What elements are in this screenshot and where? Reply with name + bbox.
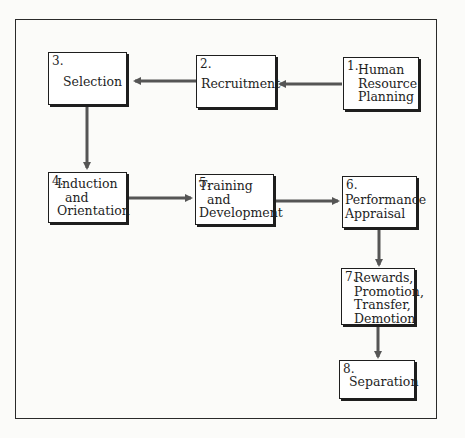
step-number: 3. (52, 55, 63, 69)
step-1-human-resource-planning: 1. Human Resource Planning (343, 57, 419, 110)
step-8-separation: 8. Separation (339, 360, 415, 399)
step-label: Human Resource Planning (358, 63, 417, 104)
step-label: Induction and Orientation (57, 177, 130, 218)
step-3-selection: 3. Selection (48, 52, 127, 105)
step-label: Training and Development (199, 179, 283, 220)
step-number: 2. (200, 58, 211, 72)
step-5-training-and-development: 5. Training and Development (195, 174, 274, 225)
step-label: Selection (63, 75, 122, 89)
step-6-performance-appraisal: 6. Performance Appraisal (342, 176, 417, 228)
step-label: Separation (349, 375, 418, 389)
step-label: Recruitment (201, 77, 280, 91)
step-7-rewards-promotion-transfer-demotion: 7. Rewards, Promotion, Transfer, Demotio… (341, 268, 415, 325)
step-label: Rewards, Promotion, Transfer, Demotion (354, 271, 424, 325)
step-2-recruitment: 2. Recruitment (196, 55, 276, 108)
step-4-induction-and-orientation: 4. Induction and Orientation (48, 172, 127, 223)
step-number: 1. (347, 60, 358, 74)
step-number: 6. (346, 179, 357, 193)
step-label: Performance Appraisal (345, 193, 426, 220)
